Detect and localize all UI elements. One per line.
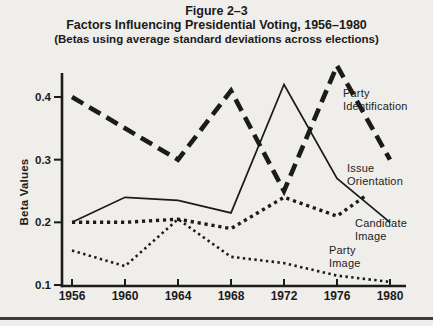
y-tick-label: 0.3	[28, 153, 51, 167]
figure-subtitle: (Betas using average standard deviations…	[0, 32, 433, 46]
y-tick-label: 0.2	[28, 215, 51, 229]
x-tick-label: 1976	[320, 289, 354, 303]
series-label-party-identification: Party Identification	[343, 87, 408, 112]
figure-title-block: Figure 2–3 Factors Influencing President…	[0, 4, 433, 46]
x-tick-label: 1964	[161, 289, 195, 303]
x-tick-label: 1956	[55, 289, 89, 303]
series-line-party-identification	[72, 66, 390, 191]
figure-title: Factors Influencing Presidential Voting,…	[0, 18, 433, 32]
series-label-candidate-image: Candidate Image	[355, 217, 407, 242]
x-tick-label: 1980	[373, 289, 407, 303]
bottom-rule	[0, 317, 433, 320]
series-label-issue-orientation: Issue Orientation	[347, 162, 403, 187]
y-tick-label: 0.1	[28, 278, 51, 292]
page: { "page": { "background": "#f0eeea", "in…	[0, 0, 433, 326]
series-line-candidate-image	[72, 195, 366, 228]
x-tick-label: 1960	[108, 289, 142, 303]
x-tick-label: 1972	[267, 289, 301, 303]
x-tick-label: 1968	[214, 289, 248, 303]
series-label-party-image: Party Image	[329, 244, 361, 269]
y-tick-label: 0.4	[28, 90, 51, 104]
figure-label: Figure 2–3	[0, 4, 433, 18]
